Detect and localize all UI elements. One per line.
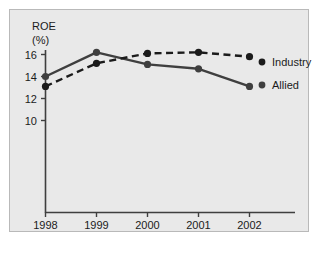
chart-figure: ROE (%) 16 14 12 10 1998 1999 2000 2001 … [0,0,320,254]
industry-markers [42,49,253,90]
y-axis-title-line1: ROE [32,20,56,32]
x-tick-label-2001: 2001 [186,219,210,231]
data-point [144,50,151,57]
line-chart: ROE (%) 16 14 12 10 1998 1999 2000 2001 … [0,0,320,254]
data-point [246,83,253,90]
x-tick-label-2000: 2000 [135,219,159,231]
data-point [42,73,49,80]
data-point [144,61,151,68]
y-tick-label-12: 12 [25,93,37,105]
data-point [93,60,100,67]
legend-marker-industry-icon [259,59,266,66]
legend-label-industry: Industry [272,56,312,68]
data-point [195,49,202,56]
data-point [93,49,100,56]
x-tick-label-1999: 1999 [84,219,108,231]
data-point [42,83,49,90]
data-point [195,65,202,72]
chart-legend: Industry Allied [259,56,312,91]
series-industry [42,49,253,90]
industry-line [46,52,250,86]
y-tick-label-14: 14 [25,71,37,83]
data-point [246,53,253,60]
y-axis-title-line2: (%) [32,34,49,46]
x-tick-label-1998: 1998 [33,219,57,231]
y-tick-label-10: 10 [25,115,37,127]
allied-line [46,52,250,86]
legend-marker-allied-icon [259,82,266,89]
x-tick-label-2002: 2002 [237,219,261,231]
y-tick-label-16: 16 [25,49,37,61]
legend-label-allied: Allied [272,79,299,91]
